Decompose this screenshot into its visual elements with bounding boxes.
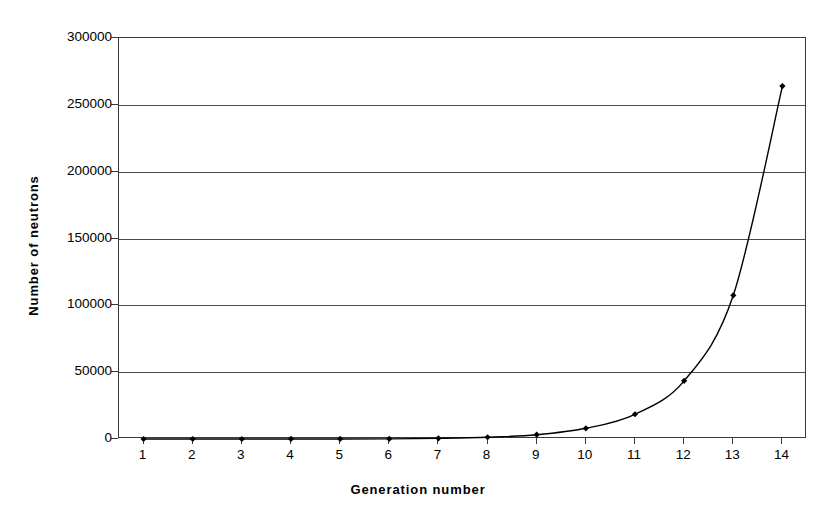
data-point-gen-14 bbox=[779, 83, 785, 89]
data-point-gen-10 bbox=[583, 425, 589, 431]
x-tick-label-4: 4 bbox=[270, 447, 310, 462]
x-tick-label-14: 14 bbox=[761, 447, 801, 462]
y-tick-mark-100000 bbox=[111, 304, 118, 305]
data-point-gen-7 bbox=[435, 435, 441, 441]
y-tick-mark-150000 bbox=[111, 238, 118, 239]
series-line bbox=[144, 86, 783, 439]
y-tick-label-100000: 100000 bbox=[0, 297, 112, 311]
y-axis: 050000100000150000200000250000300000 bbox=[0, 0, 112, 529]
x-tick-label-7: 7 bbox=[417, 447, 457, 462]
x-tick-label-11: 11 bbox=[614, 447, 654, 462]
x-tick-label-1: 1 bbox=[123, 447, 163, 462]
data-point-gen-13 bbox=[730, 292, 736, 298]
data-point-gen-3 bbox=[239, 436, 245, 442]
y-tick-mark-200000 bbox=[111, 171, 118, 172]
y-tick-label-300000: 300000 bbox=[0, 30, 112, 44]
y-tick-mark-250000 bbox=[111, 104, 118, 105]
x-tick-label-10: 10 bbox=[565, 447, 605, 462]
plot-area bbox=[118, 37, 806, 438]
y-tick-label-250000: 250000 bbox=[0, 97, 112, 111]
x-tick-label-2: 2 bbox=[172, 447, 212, 462]
y-tick-label-0: 0 bbox=[0, 431, 112, 445]
x-tick-label-5: 5 bbox=[319, 447, 359, 462]
data-point-gen-6 bbox=[386, 436, 392, 442]
x-tick-label-12: 12 bbox=[663, 447, 703, 462]
y-tick-mark-300000 bbox=[111, 37, 118, 38]
x-tick-label-6: 6 bbox=[368, 447, 408, 462]
x-tick-label-9: 9 bbox=[516, 447, 556, 462]
series-markers bbox=[140, 83, 785, 442]
data-point-gen-1 bbox=[140, 436, 146, 442]
x-tick-label-13: 13 bbox=[712, 447, 752, 462]
y-tick-label-50000: 50000 bbox=[0, 364, 112, 378]
data-point-gen-11 bbox=[632, 411, 638, 417]
data-point-gen-2 bbox=[190, 436, 196, 442]
data-point-gen-4 bbox=[288, 436, 294, 442]
y-tick-label-200000: 200000 bbox=[0, 164, 112, 178]
data-point-gen-5 bbox=[337, 436, 343, 442]
y-tick-mark-50000 bbox=[111, 371, 118, 372]
chart-screenshot: Number of neutrons 050000100000150000200… bbox=[0, 0, 836, 529]
y-tick-mark-0 bbox=[111, 438, 118, 439]
x-axis-title: Generation number bbox=[0, 482, 836, 497]
data-point-gen-8 bbox=[484, 434, 490, 440]
x-tick-label-8: 8 bbox=[467, 447, 507, 462]
x-tick-label-3: 3 bbox=[221, 447, 261, 462]
y-tick-label-150000: 150000 bbox=[0, 231, 112, 245]
series-neutrons bbox=[119, 38, 807, 439]
data-point-gen-9 bbox=[534, 432, 540, 438]
